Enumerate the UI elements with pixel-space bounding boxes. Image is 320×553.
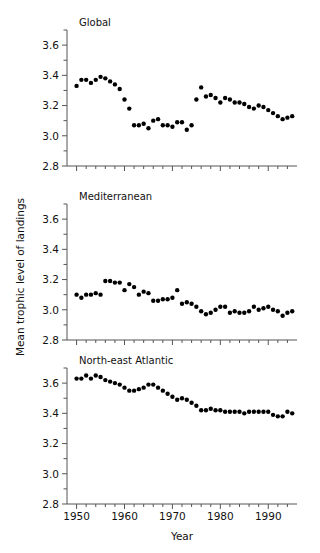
data-point: [185, 128, 189, 132]
data-point: [118, 382, 122, 386]
data-point: [175, 398, 179, 402]
data-point: [218, 305, 222, 309]
data-point: [252, 106, 256, 110]
data-point: [170, 295, 174, 299]
data-point: [213, 408, 217, 412]
data-point: [113, 381, 117, 385]
data-point: [103, 378, 107, 382]
data-point: [194, 305, 198, 309]
data-point: [204, 312, 208, 316]
data-point: [113, 280, 117, 284]
x-tick-label: 1990: [255, 510, 282, 522]
data-point: [127, 106, 131, 110]
data-point: [261, 410, 265, 414]
data-point: [213, 308, 217, 312]
data-point: [89, 376, 93, 380]
data-point: [165, 297, 169, 301]
data-point: [247, 309, 251, 313]
data-point: [185, 398, 189, 402]
data-point: [194, 404, 198, 408]
data-series: [74, 75, 294, 132]
data-point: [132, 285, 136, 289]
data-point: [209, 407, 213, 411]
data-point: [276, 114, 280, 118]
data-point: [118, 87, 122, 91]
data-point: [89, 292, 93, 296]
data-point: [247, 410, 251, 414]
data-point: [180, 120, 184, 124]
data-point: [209, 311, 213, 315]
panel-north-east-atlantic: 2.83.03.23.43.619501960197019801990North…: [42, 355, 297, 522]
data-point: [156, 117, 160, 121]
data-point: [132, 123, 136, 127]
data-point: [103, 279, 107, 283]
y-tick-label: 3.0: [42, 304, 59, 316]
data-point: [271, 111, 275, 115]
data-point: [199, 85, 203, 89]
data-point: [223, 410, 227, 414]
data-point: [118, 280, 122, 284]
data-point: [175, 120, 179, 124]
data-point: [271, 308, 275, 312]
data-point: [103, 76, 107, 80]
data-point: [89, 81, 93, 85]
data-point: [290, 309, 294, 313]
data-point: [137, 123, 141, 127]
y-tick-label: 3.4: [42, 407, 59, 419]
data-point: [141, 385, 145, 389]
data-point: [127, 388, 131, 392]
data-point: [146, 126, 150, 130]
x-tick-label: 1950: [63, 510, 90, 522]
data-point: [233, 410, 237, 414]
data-point: [79, 78, 83, 82]
data-point: [266, 410, 270, 414]
x-tick-label: 1960: [111, 510, 138, 522]
data-point: [108, 79, 112, 83]
panel-title: Mediterranean: [79, 191, 152, 202]
data-point: [180, 396, 184, 400]
data-point: [280, 414, 284, 418]
data-point: [146, 382, 150, 386]
data-point: [280, 117, 284, 121]
data-point: [285, 311, 289, 315]
data-point: [122, 288, 126, 292]
data-point: [204, 408, 208, 412]
data-point: [108, 379, 112, 383]
data-point: [237, 100, 241, 104]
data-point: [242, 102, 246, 106]
data-point: [242, 411, 246, 415]
data-point: [141, 121, 145, 125]
data-point: [127, 282, 131, 286]
data-point: [170, 395, 174, 399]
y-tick-label: 2.8: [42, 160, 59, 172]
data-point: [276, 414, 280, 418]
data-point: [189, 123, 193, 127]
x-tick-label: 1970: [159, 510, 186, 522]
y-tick-label: 2.8: [42, 498, 59, 510]
data-point: [256, 410, 260, 414]
data-point: [180, 302, 184, 306]
data-point: [218, 408, 222, 412]
y-tick-label: 3.6: [42, 213, 59, 225]
y-tick-label: 3.2: [42, 437, 59, 449]
data-point: [276, 309, 280, 313]
y-tick-label: 3.6: [42, 377, 59, 389]
y-tick-label: 3.4: [42, 243, 59, 255]
data-point: [261, 306, 265, 310]
data-point: [228, 410, 232, 414]
panel-title: Global: [79, 17, 111, 28]
data-point: [98, 292, 102, 296]
data-point: [223, 305, 227, 309]
y-tick-label: 3.2: [42, 99, 59, 111]
data-point: [209, 93, 213, 97]
data-point: [280, 314, 284, 318]
data-point: [94, 291, 98, 295]
data-point: [199, 309, 203, 313]
data-point: [94, 373, 98, 377]
data-point: [223, 96, 227, 100]
data-point: [132, 388, 136, 392]
data-point: [137, 387, 141, 391]
data-point: [233, 100, 237, 104]
data-point: [175, 288, 179, 292]
data-point: [161, 123, 165, 127]
